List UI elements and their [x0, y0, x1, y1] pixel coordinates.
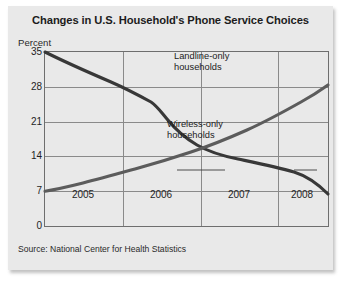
y-tick-0: 0: [16, 220, 42, 231]
source-note: Source: National Center for Health Stati…: [18, 244, 186, 254]
y-tick-7: 7: [16, 185, 42, 196]
y-axis-ticks: 0 7 14 21 28 35: [12, 51, 42, 225]
chart-card: Changes in U.S. Household's Phone Servic…: [8, 6, 333, 270]
y-tick-21: 21: [16, 115, 42, 126]
chart-screenshot: Changes in U.S. Household's Phone Servic…: [0, 0, 341, 284]
x-tick-2006: 2006: [150, 189, 172, 200]
x-tick-2005: 2005: [72, 189, 94, 200]
x-tick-2008: 2008: [291, 189, 313, 200]
annotation-wireless-line1: Wireless-only: [167, 119, 223, 130]
y-tick-28: 28: [16, 80, 42, 91]
annotation-landline-line2: households: [174, 62, 229, 73]
x-tick-2007: 2007: [228, 189, 250, 200]
y-tick-14: 14: [16, 150, 42, 161]
page-title: Changes in U.S. Household's Phone Servic…: [8, 14, 333, 26]
annotation-landline-line1: Landline-only: [174, 51, 229, 62]
annotation-landline: Landline-only households: [174, 51, 229, 74]
annotation-wireless: Wireless-only households: [167, 119, 223, 142]
y-tick-35: 35: [16, 46, 42, 57]
annotation-wireless-line2: households: [167, 130, 223, 141]
